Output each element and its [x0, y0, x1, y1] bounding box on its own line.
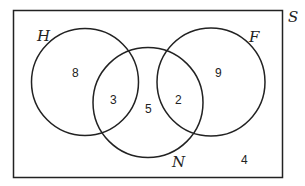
region-h-only: 8	[72, 66, 79, 80]
region-f-and-n: 2	[175, 93, 182, 107]
region-n-only: 5	[145, 102, 152, 116]
set-h-label: H	[36, 27, 51, 45]
region-f-only: 9	[215, 66, 222, 80]
set-f-label: F	[248, 28, 260, 46]
set-n-label: N	[171, 153, 186, 171]
venn-diagram: S H F N 8 9 3 5 2 4	[0, 0, 305, 186]
region-h-and-n: 3	[110, 93, 117, 107]
region-outside: 4	[241, 153, 248, 167]
universe-label: S	[288, 8, 298, 26]
